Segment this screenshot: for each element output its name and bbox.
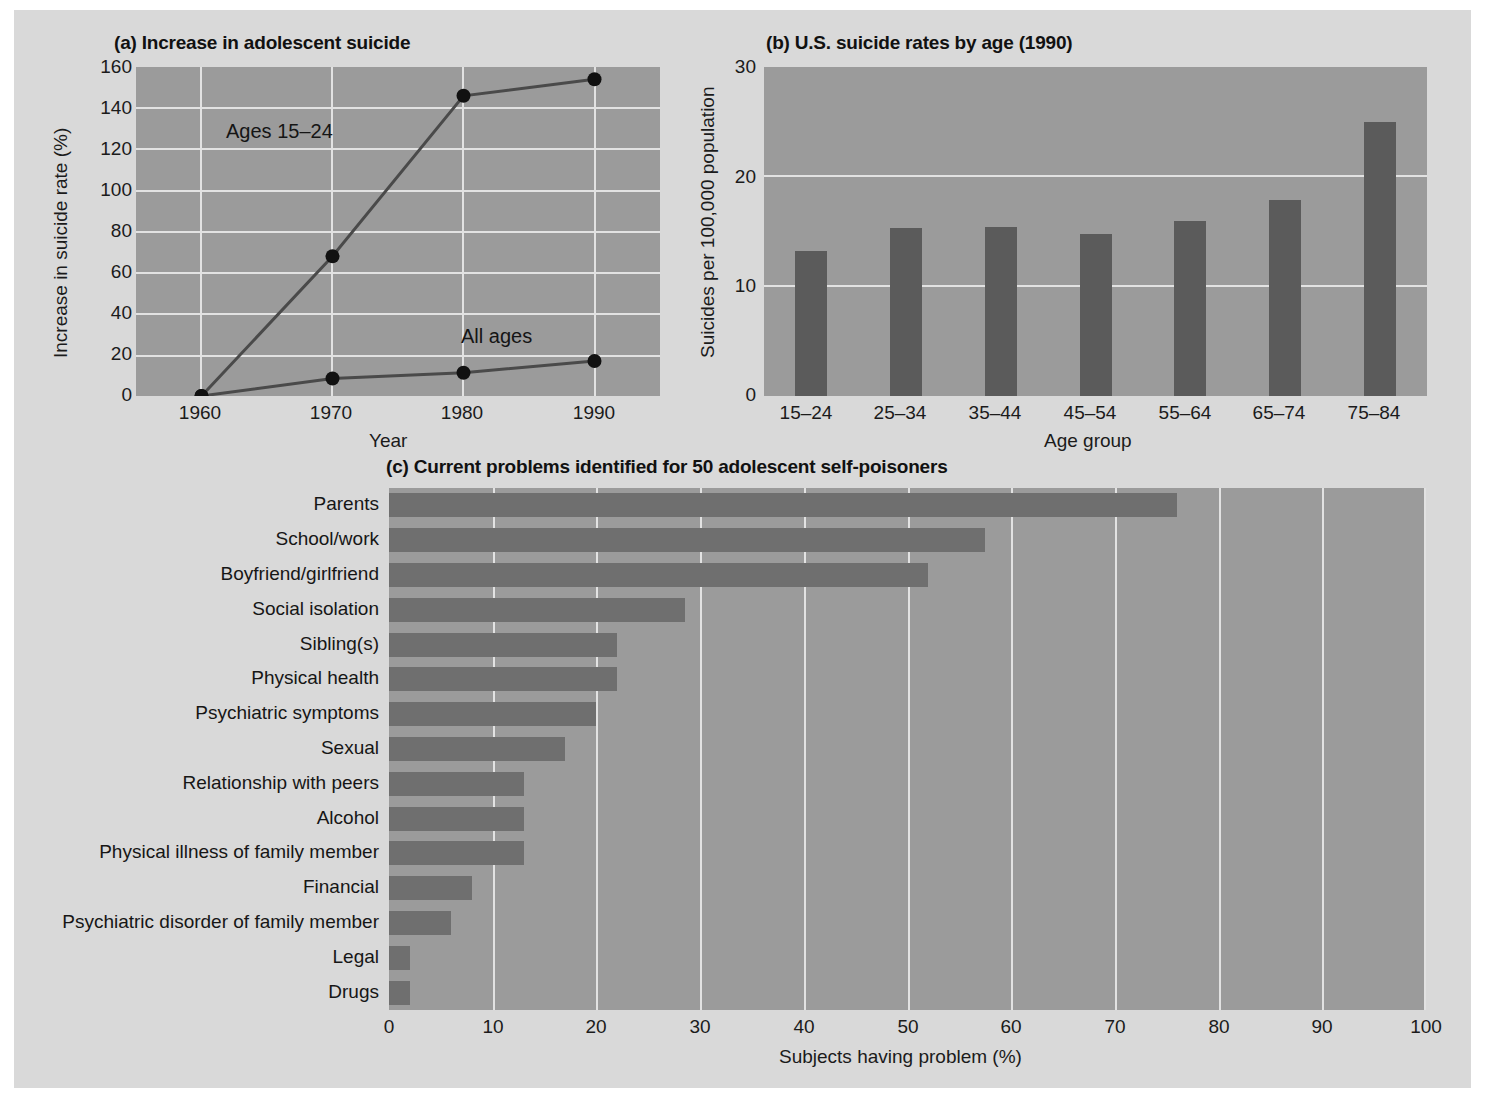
panel-c-category-label: Financial (303, 876, 379, 898)
panel-c-gridline-v (1219, 488, 1221, 1010)
panel-a-ytick-160: 160 (64, 56, 132, 78)
panel-a-data-point (588, 354, 602, 368)
panel-c-bar (389, 563, 928, 587)
panel-b-xtick-6: 75–84 (1327, 402, 1421, 424)
panel-c-category-label: Alcohol (317, 807, 379, 829)
panel-c-title: (c) Current problems identified for 50 a… (386, 456, 948, 478)
panel-b-plot-area (764, 67, 1427, 396)
panel-c-gridline-v (1011, 488, 1013, 1010)
panel-c-xtick-70: 70 (1075, 1016, 1155, 1038)
panel-a-ytick-0: 0 (64, 384, 132, 406)
panel-c-gridline-v (1115, 488, 1117, 1010)
panel-b-ytick-20: 20 (708, 166, 756, 188)
panel-a-xtick-1960: 1960 (150, 402, 250, 424)
panel-c-category-label: Social isolation (252, 598, 379, 620)
panel-c-category-label: Parents (314, 493, 379, 515)
panel-c-category-label: Physical health (251, 667, 379, 689)
panel-c-bar (389, 528, 985, 552)
panel-b-bar (1080, 234, 1112, 396)
panel-c-xtick-20: 20 (556, 1016, 636, 1038)
panel-b-xtick-0: 15–24 (759, 402, 853, 424)
panel-a-xtick-1970: 1970 (281, 402, 381, 424)
panel-a-data-point (326, 372, 340, 386)
panel-b-gridline-h (764, 175, 1427, 177)
panel-b-xtick-2: 35–44 (948, 402, 1042, 424)
panel-c-bar (389, 702, 596, 726)
panel-c-category-label: Drugs (328, 981, 379, 1003)
panel-c-bar (389, 493, 1177, 517)
panel-c-bar (389, 807, 524, 831)
figure-canvas: (a) Increase in adolescent suicide Incre… (14, 10, 1471, 1088)
panel-b-ytick-10: 10 (708, 275, 756, 297)
panel-c-category-label: Boyfriend/girlfriend (221, 563, 379, 585)
panel-a-data-point (326, 249, 340, 263)
panel-c-bar (389, 981, 410, 1005)
panel-a-annotation-all-ages: All ages (461, 325, 532, 348)
panel-c-plot-area (389, 488, 1426, 1010)
panel-c-bar (389, 841, 524, 865)
panel-b-bar (795, 251, 827, 396)
panel-a-series-svg (136, 67, 660, 396)
panel-c-xtick-90: 90 (1282, 1016, 1362, 1038)
panel-c-category-label: Legal (333, 946, 380, 968)
panel-a-ytick-120: 120 (64, 138, 132, 160)
panel-b-bar (985, 227, 1017, 396)
panel-b-xtick-3: 45–54 (1043, 402, 1137, 424)
panel-c-xtick-0: 0 (349, 1016, 429, 1038)
panel-c-bar (389, 633, 617, 657)
panel-c-bar (389, 946, 410, 970)
panel-a-ytick-20: 20 (64, 343, 132, 365)
panel-a-ytick-80: 80 (64, 220, 132, 242)
panel-b-y-axis-label: Suicides per 100,000 population (697, 87, 719, 358)
panel-b-bar (1174, 221, 1206, 396)
panel-c-category-label: Relationship with peers (183, 772, 379, 794)
panel-c-gridline-v (1322, 488, 1324, 1010)
panel-b-xtick-4: 55–64 (1138, 402, 1232, 424)
panel-c-bar (389, 598, 685, 622)
panel-a-data-point (588, 72, 602, 86)
panel-a-ytick-40: 40 (64, 302, 132, 324)
panel-c-bar (389, 772, 524, 796)
panel-b-ytick-0: 0 (708, 384, 756, 406)
panel-c-xtick-60: 60 (971, 1016, 1051, 1038)
panel-c-category-label: Physical illness of family member (99, 841, 379, 863)
panel-c-category-label: Psychiatric symptoms (195, 702, 379, 724)
panel-b-bar (1269, 200, 1301, 396)
panel-b-ytick-30: 30 (708, 56, 756, 78)
panel-c-category-label: School/work (276, 528, 380, 550)
panel-c-bar (389, 876, 472, 900)
panel-c-xtick-10: 10 (453, 1016, 533, 1038)
panel-b-bar (1364, 122, 1396, 396)
panel-c-bar (389, 911, 451, 935)
panel-c-category-label: Psychiatric disorder of family member (62, 911, 379, 933)
panel-c-gridline-v (1424, 488, 1426, 1010)
panel-c-xtick-50: 50 (868, 1016, 948, 1038)
panel-c-bar (389, 667, 617, 691)
panel-b-xtick-1: 25–34 (853, 402, 947, 424)
panel-a-plot-area (136, 67, 660, 396)
panel-a-ytick-140: 140 (64, 97, 132, 119)
panel-c-xtick-100: 100 (1386, 1016, 1466, 1038)
panel-b-xtick-5: 65–74 (1232, 402, 1326, 424)
panel-c-category-label: Sexual (321, 737, 379, 759)
panel-a-ytick-100: 100 (64, 179, 132, 201)
panel-b-title: (b) U.S. suicide rates by age (1990) (766, 32, 1072, 54)
panel-a-xtick-1990: 1990 (544, 402, 644, 424)
panel-a-ytick-60: 60 (64, 261, 132, 283)
panel-c-xtick-40: 40 (764, 1016, 844, 1038)
panel-c-x-axis-label: Subjects having problem (%) (779, 1046, 1022, 1068)
panel-b-x-axis-label: Age group (1044, 430, 1132, 452)
panel-c-category-label: Sibling(s) (300, 633, 379, 655)
panel-c-bar (389, 737, 565, 761)
panel-c-xtick-30: 30 (660, 1016, 740, 1038)
panel-a-x-axis-label: Year (369, 430, 407, 452)
panel-b-bar (890, 228, 922, 396)
panel-a-data-point (457, 89, 471, 103)
panel-a-annotation-ages-15-24: Ages 15–24 (226, 120, 333, 143)
panel-a-data-point (457, 366, 471, 380)
panel-a-xtick-1980: 1980 (412, 402, 512, 424)
panel-a-title: (a) Increase in adolescent suicide (114, 32, 410, 54)
panel-c-xtick-80: 80 (1179, 1016, 1259, 1038)
panel-a-line-all-ages (202, 361, 595, 396)
